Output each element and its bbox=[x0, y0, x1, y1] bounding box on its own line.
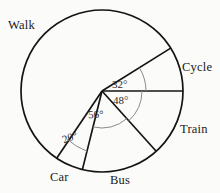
sector-label-car: Car bbox=[50, 170, 69, 185]
radius-train-bus bbox=[102, 91, 156, 151]
arc-mark-48 bbox=[129, 91, 142, 121]
sector-label-walk: Walk bbox=[8, 18, 35, 33]
sector-label-cycle: Cycle bbox=[182, 60, 212, 75]
radius-bus-car bbox=[82, 91, 102, 170]
pie-chart-figure: Walk Cycle Train Car Bus 32° 48° 56° 20° bbox=[0, 0, 220, 193]
angle-label-cycle: 32° bbox=[112, 78, 127, 90]
arc-mark-56 bbox=[93, 119, 127, 129]
angle-label-train: 48° bbox=[113, 94, 128, 106]
sector-label-bus: Bus bbox=[110, 173, 130, 188]
sector-label-train: Train bbox=[180, 122, 208, 137]
arc-mark-32 bbox=[139, 68, 146, 91]
angle-label-bus: 56° bbox=[88, 108, 104, 121]
